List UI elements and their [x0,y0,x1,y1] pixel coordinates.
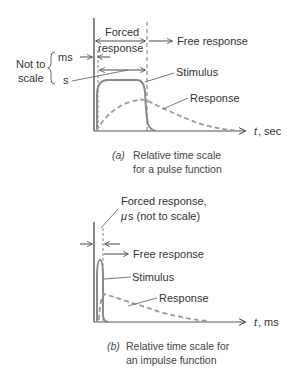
caption-b-line1: Relative time scale for [126,340,230,352]
stimulus-label-a: Stimulus [176,66,219,78]
stimulus-leader-b [104,277,131,279]
caption-tag-a: (a) [112,149,125,161]
response-curve-a [96,100,240,131]
forced-label-a2: response [98,42,143,54]
forced-label-b1: Forced response, [121,195,207,207]
forced-label-a1: Forced [105,26,139,38]
caption-tag-b: (b) [107,340,120,352]
free-response-label-a: Free response [177,35,248,47]
stimulus-label-b: Stimulus [132,271,175,283]
ms-label: ms [58,51,73,63]
not-to-scale-label-2: scale [18,72,44,84]
not-to-scale-label-1: Not to [16,58,45,70]
caption-a-line2: for a pulse function [133,163,222,175]
caption-a-line1: Relative time scale [133,149,221,161]
stimulus-leader-a [145,73,174,82]
free-response-label-b: Free response [133,248,204,260]
axis-unit-b: , ms [258,316,279,328]
forced-leader-b [101,209,118,228]
panel-a: Forced response Free response Not to sca… [16,18,282,175]
caption-b-line2: an impulse function [126,354,217,366]
response-leader-a [163,98,188,109]
axis-unit-a: , sec [258,125,282,137]
diagram-canvas: Forced response Free response Not to sca… [0,0,298,370]
forced-label-b2: s (not to scale) [128,210,200,222]
panel-b: Forced response, μ s (not to scale) Free… [80,195,279,366]
response-label-a: Response [190,92,240,104]
s-label: s [63,74,69,86]
not-to-scale-brace [48,52,55,84]
stimulus-curve-b [97,260,108,322]
response-label-b: Response [159,292,209,304]
mu-symbol: μ [120,210,127,222]
